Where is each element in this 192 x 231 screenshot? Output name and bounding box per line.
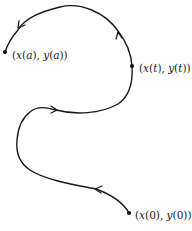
label-start-point: (x(0), y(0)): [135, 209, 192, 221]
parametric-curve: [5, 6, 132, 213]
point-start-dot: [127, 211, 131, 215]
label-end-point: (x(a), y(a)): [12, 49, 68, 61]
point-middle-dot: [130, 64, 134, 68]
parametric-curve-diagram: (x(a), y(a)) (x(t), y(t)) (x(0), y(0)): [0, 0, 192, 231]
point-end-dot: [3, 50, 7, 54]
label-middle-point: (x(t), y(t)): [139, 62, 191, 74]
direction-arrow-icon: [116, 32, 122, 39]
